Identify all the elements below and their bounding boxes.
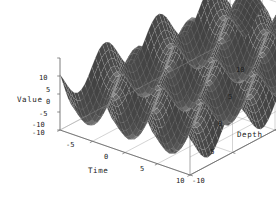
z-tick-label: 0 bbox=[46, 98, 50, 106]
y-tick-label: 0 bbox=[218, 120, 222, 128]
surface-plot-figure: Value Time Depth 1050-5-10-10-50510-10-5… bbox=[0, 0, 276, 202]
y-tick-label: 5 bbox=[228, 93, 232, 101]
y-tick-label: -5 bbox=[206, 148, 214, 156]
z-tick-label: -10 bbox=[32, 121, 45, 129]
x-tick-label: 10 bbox=[176, 177, 184, 185]
z-axis-title: Value bbox=[17, 95, 43, 104]
z-tick-label: 5 bbox=[46, 86, 50, 94]
y-tick-label: -10 bbox=[192, 177, 205, 185]
x-axis-title: Time bbox=[88, 166, 108, 175]
x-tick-label: 5 bbox=[140, 165, 144, 173]
y-axis-title: Depth bbox=[237, 130, 263, 139]
z-tick-label: 10 bbox=[39, 74, 47, 82]
z-tick-label: -5 bbox=[39, 110, 47, 118]
x-tick-label: -5 bbox=[66, 141, 74, 149]
x-tick-label: -10 bbox=[32, 129, 45, 137]
y-tick-label: 10 bbox=[236, 66, 244, 74]
x-tick-label: 0 bbox=[104, 153, 108, 161]
